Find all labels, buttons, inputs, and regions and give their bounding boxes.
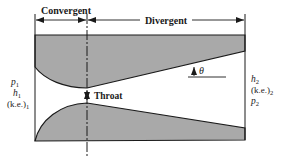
outlet-conditions: h2 (k.e.)2 p2 xyxy=(250,74,273,107)
inlet-pressure-subscript: 1 xyxy=(16,81,19,88)
inlet-conditions: p1 h1 (k.e.)1 xyxy=(7,77,29,110)
nozzle-diagram: Convergent Divergent Throat θ p1 h1 (k.e… xyxy=(0,0,282,163)
upper-nozzle-wall xyxy=(35,35,245,88)
inlet-kinetic-energy-subscript: 1 xyxy=(26,103,29,110)
divergent-label: Divergent xyxy=(145,15,188,26)
svg-text:h1: h1 xyxy=(13,88,21,99)
outlet-pressure-subscript: 2 xyxy=(256,100,259,107)
svg-text:h2: h2 xyxy=(251,74,259,85)
outlet-kinetic-energy-symbol: (k.e.) xyxy=(251,85,270,95)
inlet-enthalpy-subscript: 1 xyxy=(18,92,21,99)
outlet-enthalpy-subscript: 2 xyxy=(256,78,259,85)
convergent-label: Convergent xyxy=(41,5,92,16)
lower-nozzle-wall xyxy=(35,103,245,141)
outlet-kinetic-energy-subscript: 2 xyxy=(270,89,273,96)
svg-text:(k.e.)1: (k.e.)1 xyxy=(7,99,29,110)
angle-theta-label: θ xyxy=(199,65,204,76)
inlet-kinetic-energy-symbol: (k.e.) xyxy=(7,99,26,109)
svg-text:(k.e.)2: (k.e.)2 xyxy=(251,85,273,96)
throat-label: Throat xyxy=(94,91,123,101)
svg-text:p1: p1 xyxy=(10,77,19,88)
svg-text:p2: p2 xyxy=(250,96,259,107)
